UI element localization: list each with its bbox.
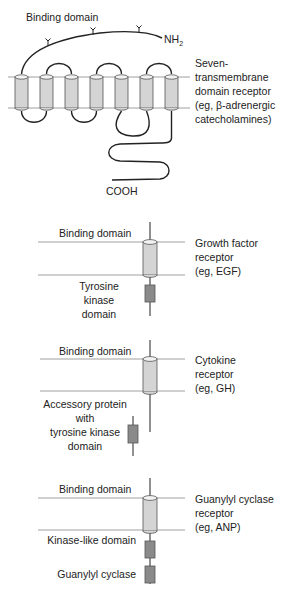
transmembrane-helices: [15, 75, 178, 110]
domain-label: Kinase-like domain: [30, 533, 136, 547]
guanylyl-cyclase-box: [145, 566, 155, 583]
domain-label: Guanylyl cyclase: [30, 567, 136, 581]
domain-label: Accessory protein with tyrosine kinase d…: [33, 397, 137, 453]
kinase-like-box: [145, 541, 155, 558]
n-terminus-subscript: 2: [179, 40, 183, 47]
binding-domain-label: Binding domain: [59, 226, 131, 240]
n-terminus-text: NH: [164, 33, 179, 45]
n-terminus-chain: [22, 32, 163, 74]
receptor-type-label: Guanylyl cyclase receptor (eg, ANP): [195, 492, 274, 534]
tyrosine-kinase-box: [145, 285, 155, 302]
receptor-type-label: Seven- transmembrane domain receptor (eg…: [195, 56, 275, 126]
glycosylation-icon: [46, 26, 142, 47]
domain-label: Tyrosine kinase domain: [66, 279, 132, 321]
binding-domain-label: Binding domain: [59, 344, 131, 358]
binding-domain-label: Binding domain: [59, 482, 131, 496]
c-terminus-label: COOH: [106, 184, 138, 198]
receptor-type-label: Cytokine receptor (eg, GH): [195, 353, 236, 395]
receptor-type-label: Growth factor receptor (eg, EGF): [195, 236, 258, 278]
seven-tm-panel: [8, 26, 190, 181]
binding-domain-label: Binding domain: [26, 10, 98, 24]
n-terminus-label: NH2: [164, 32, 183, 46]
c-terminus-chain: [109, 111, 172, 180]
extracellular-loops: [47, 64, 172, 75]
intracellular-loops: [22, 111, 150, 136]
